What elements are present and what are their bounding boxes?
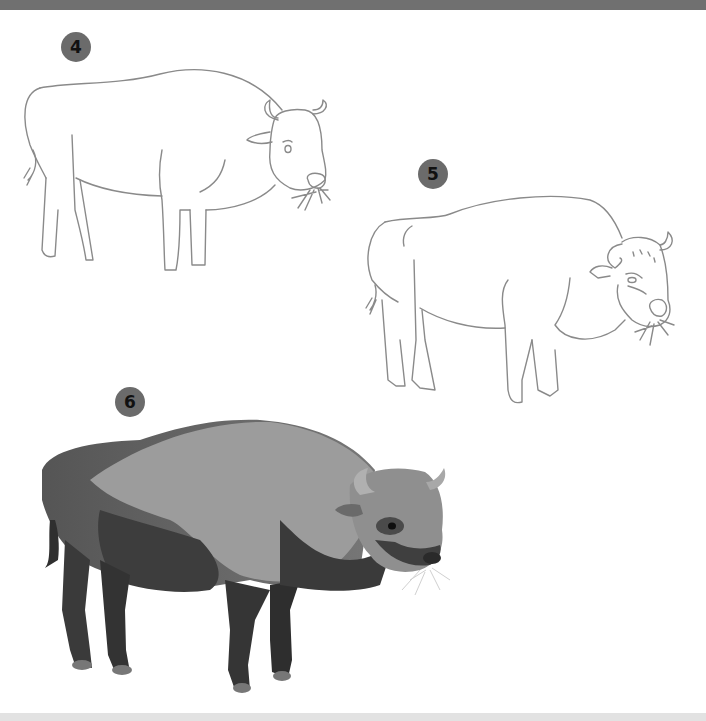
step-number: 4 <box>70 37 82 57</box>
bottom-bar <box>0 713 706 721</box>
bison-outline-step-4 <box>0 60 350 280</box>
step-number: 5 <box>427 164 439 184</box>
bison-detailed-sketch-icon <box>350 190 706 420</box>
step-badge-5: 5 <box>418 159 448 189</box>
bison-sketch-icon <box>0 60 350 280</box>
top-bar <box>0 0 706 10</box>
step-number: 6 <box>124 392 136 412</box>
bison-outline-step-5 <box>350 190 706 420</box>
step-badge-4: 4 <box>61 32 91 62</box>
bison-shaded-step-6 <box>30 410 460 700</box>
bison-shaded-illustration-icon <box>30 410 460 700</box>
